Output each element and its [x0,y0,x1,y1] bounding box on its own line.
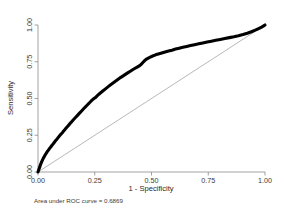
roc-plot-canvas: 0.000.250.500.751.00 0.000.250.500.751.0… [0,0,284,219]
x-tick-label: 0.25 [88,176,102,185]
y-axis-title: Sensitivity [6,81,15,115]
x-tick-label: 1.00 [258,176,272,185]
roc-curve-figure: 0.000.250.500.751.00 0.000.250.500.751.0… [0,0,284,219]
x-tick-label: 0.00 [31,176,45,185]
y-tick-label: 0.50 [25,92,34,106]
y-tick-label: 0.75 [25,55,34,69]
x-axis-title: 1 - Specificity [128,184,173,193]
x-tick-label: 0.75 [201,176,215,185]
y-tick-label: 1.00 [25,18,34,32]
y-tick-label: 0.25 [25,128,34,142]
auc-caption: Area under ROC curve = 0.6869 [34,197,123,204]
